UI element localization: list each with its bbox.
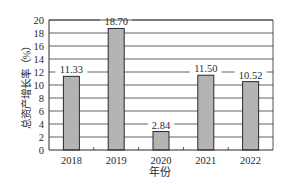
y-tick-label: 10 [34,80,45,91]
y-tick-label: 2 [39,132,44,143]
x-tick-label: 2018 [61,155,82,166]
y-tick-label: 20 [34,15,45,26]
bar-2022 [243,82,259,150]
x-tick-label: 2020 [151,155,172,166]
value-label: 11.33 [60,64,83,75]
y-tick-label: 0 [39,145,44,156]
bar-2018 [63,76,79,150]
y-axis-ticks: 02468101214161820 [34,15,45,156]
y-tick-label: 8 [39,93,44,104]
y-tick-label: 4 [39,119,45,130]
y-tick-label: 12 [34,67,45,78]
bar-chart: 02468101214161820 11.3318.702.8411.5010.… [0,0,290,184]
value-label: 10.52 [239,70,263,81]
x-axis-label: 年份 [149,165,171,178]
y-tick-label: 16 [34,41,45,52]
bar-2020 [153,132,169,150]
value-label: 2.84 [152,120,171,131]
y-tick-label: 6 [39,106,44,117]
x-tick-label: 2022 [240,155,261,166]
y-tick-label: 18 [34,28,45,39]
value-label: 18.70 [104,16,128,27]
x-tick-label: 2019 [106,155,127,166]
y-axis-label: 总资产增长率（%） [20,41,32,130]
y-tick-label: 14 [34,54,45,65]
bars: 11.3318.702.8411.5010.52 [55,16,266,150]
bar-2019 [108,28,124,150]
value-label: 11.50 [194,63,217,74]
bar-2021 [198,75,214,150]
x-tick-label: 2021 [195,155,216,166]
